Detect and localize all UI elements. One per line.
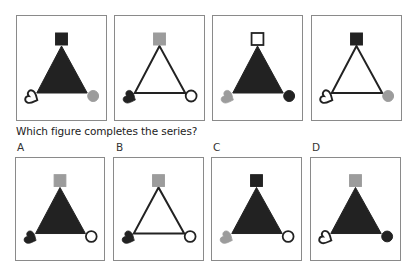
option-c-figure[interactable]: [211, 157, 302, 261]
option-b-figure[interactable]: [113, 157, 204, 261]
triangle-shape: [134, 187, 184, 233]
triangle-shape: [331, 187, 381, 233]
option-d-figure[interactable]: [310, 157, 401, 261]
square-shape: [154, 33, 166, 45]
triangle-shape: [332, 46, 382, 93]
circle-shape: [283, 231, 294, 242]
circle-shape: [383, 91, 394, 102]
circle-shape: [186, 91, 197, 102]
circle-shape: [284, 91, 295, 102]
triangle-shape: [232, 187, 282, 233]
circle-shape: [86, 231, 97, 242]
triangle-shape: [135, 46, 185, 93]
circle-shape: [88, 91, 99, 102]
circle-shape: [382, 231, 393, 242]
option-a-figure[interactable]: [15, 157, 105, 261]
question-text: Which figure completes the series?: [16, 125, 197, 137]
square-shape: [351, 33, 363, 45]
square-shape: [350, 175, 362, 187]
option-a-label: A: [17, 141, 24, 153]
series-figure-2: [114, 15, 205, 121]
option-b-label: B: [116, 141, 123, 153]
circle-shape: [185, 231, 196, 242]
series-figure-4: [311, 15, 402, 121]
option-d-label: D: [312, 141, 320, 153]
triangle-shape: [37, 46, 87, 93]
triangle-shape: [36, 187, 86, 233]
square-shape: [251, 175, 263, 187]
square-shape: [252, 33, 264, 45]
triangle-shape: [233, 46, 283, 93]
series-figure-1: [16, 15, 107, 121]
option-c-label: C: [213, 141, 220, 153]
series-figure-3: [212, 15, 303, 121]
square-shape: [153, 175, 165, 187]
square-shape: [54, 175, 66, 187]
square-shape: [56, 33, 68, 45]
